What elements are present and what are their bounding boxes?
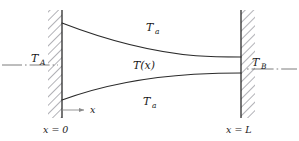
label-temp-right-base: T — [252, 56, 261, 69]
label-position-right: x = L — [226, 124, 252, 135]
label-temp-ambient-bottom: T a — [143, 95, 156, 110]
heat-conduction-diagram: T A T B T(x) T a T a x x = 0 x = L — [0, 0, 299, 141]
label-temp-profile: T(x) — [133, 59, 155, 72]
wall-left — [48, 10, 62, 118]
label-axis-x: x — [90, 104, 96, 115]
label-position-left: x = 0 — [43, 124, 68, 135]
label-temp-ambient-top-sub: a — [155, 27, 159, 36]
label-temp-left-base: T — [31, 52, 40, 65]
label-temp-left-sub: A — [39, 58, 46, 67]
label-temp-ambient-top: T a — [146, 21, 159, 36]
label-temp-ambient-bottom-base: T — [143, 95, 152, 108]
label-temp-ambient-top-base: T — [146, 21, 155, 34]
curve-lower — [62, 73, 241, 100]
label-temp-right-sub: B — [260, 62, 267, 71]
label-temp-ambient-bottom-sub: a — [152, 101, 156, 110]
